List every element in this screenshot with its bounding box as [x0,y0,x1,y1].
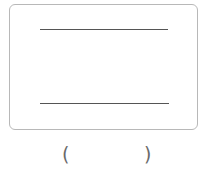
bottom-line [40,103,169,104]
figure-box [9,4,198,130]
top-line [40,29,168,30]
answer-blank[interactable] [75,145,140,165]
answer-close-paren: ) [144,143,151,165]
answer-open-paren: ( [62,143,69,165]
